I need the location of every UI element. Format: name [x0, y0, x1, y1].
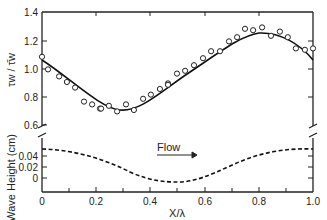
y-tick-label: 0.04 — [19, 151, 39, 162]
data-point — [165, 82, 170, 87]
data-point — [209, 49, 214, 54]
y-tick-label: 0.02 — [19, 162, 39, 173]
data-point — [293, 46, 298, 51]
data-point — [81, 99, 86, 104]
lower-y-tick-labels: 0.04 0.02 0 — [19, 151, 39, 184]
x-tick-label: 0.8 — [252, 196, 266, 207]
chart-figure: 1.4 1.2 1.0 0.8 0.6 0.04 0.02 0 0 0.2 0.… — [0, 0, 327, 220]
data-point — [217, 49, 222, 54]
data-point — [191, 63, 196, 68]
data-point — [310, 46, 315, 51]
data-point — [73, 85, 78, 90]
wave-height-curve — [42, 149, 313, 182]
data-point — [39, 54, 44, 59]
data-point — [106, 103, 111, 108]
y-tick-label: 0 — [32, 173, 38, 184]
data-point — [183, 68, 188, 73]
data-point — [251, 28, 256, 33]
y-tick-label: 0.6 — [24, 120, 38, 131]
data-point — [115, 109, 120, 114]
x-tick-labels: 0 0.2 0.4 0.6 0.8 1.0 — [39, 196, 320, 207]
data-point — [226, 39, 231, 44]
data-point — [57, 74, 62, 79]
data-point — [131, 107, 136, 112]
flow-label: Flow — [157, 141, 180, 153]
axes — [38, 12, 317, 192]
data-point — [242, 26, 247, 31]
x-tick-label: 0 — [39, 196, 45, 207]
x-tick-label: 0.4 — [143, 196, 157, 207]
data-point — [141, 96, 146, 101]
lower-y-axis-title: Wave Height (cm) — [5, 134, 17, 220]
left-axis-break — [38, 124, 46, 137]
x-axis-title: X/λ — [169, 207, 185, 219]
data-point — [45, 67, 50, 72]
data-point — [235, 35, 240, 40]
y-tick-label: 1.4 — [24, 7, 38, 18]
data-point — [268, 33, 273, 38]
data-point — [123, 102, 128, 107]
y-tick-label: 1.0 — [24, 64, 38, 75]
data-point — [157, 86, 162, 91]
data-point — [64, 79, 69, 84]
data-point — [99, 106, 104, 111]
upper-y-tick-labels: 1.4 1.2 1.0 0.8 0.6 — [24, 7, 38, 131]
data-point — [90, 102, 95, 107]
data-point — [174, 71, 179, 76]
x-tick-label: 0.2 — [89, 196, 103, 207]
right-axis-break — [309, 124, 317, 137]
data-point — [260, 25, 265, 30]
x-tick-label: 1.0 — [306, 196, 320, 207]
data-point — [148, 92, 153, 97]
upper-y-axis-title: τw / τ̄w — [5, 53, 17, 87]
data-point — [285, 35, 290, 40]
data-points — [39, 25, 315, 114]
x-tick-label: 0.6 — [198, 196, 212, 207]
data-point — [200, 56, 205, 61]
data-point — [302, 47, 307, 52]
y-tick-label: 1.2 — [24, 36, 38, 47]
y-tick-label: 0.8 — [24, 92, 38, 103]
data-point — [277, 29, 282, 34]
